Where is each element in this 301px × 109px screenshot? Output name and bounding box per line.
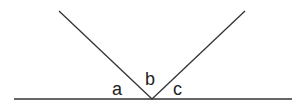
left-ray xyxy=(59,11,152,99)
angle-label-b: b xyxy=(145,69,155,89)
angle-diagram: a b c xyxy=(0,0,301,109)
angle-label-c: c xyxy=(173,79,182,99)
right-ray xyxy=(152,11,245,99)
angle-label-a: a xyxy=(112,79,123,99)
